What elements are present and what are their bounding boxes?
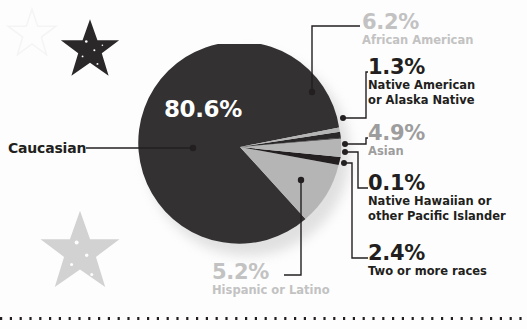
label-native-american-pct: 1.3% [368,57,475,78]
star-icon [58,18,122,80]
label-two-or-more-name: Two or more races [368,265,487,279]
label-native-american-name-line1: Native American [368,79,475,93]
label-native-american: 1.3% Native American or Alaska Native [368,57,475,107]
star-icon [38,208,122,294]
label-caucasian: Caucasian [8,140,86,156]
leader-two-or-more [344,163,368,258]
label-two-or-more: 2.4% Two or more races [368,243,487,279]
label-african-american-pct: 6.2% [362,12,473,33]
pie-chart: 80.6% [138,44,346,254]
label-african-american: 6.2% African American [362,12,473,48]
label-native-hawaiian-pct: 0.1% [368,173,506,194]
dotted-divider [0,317,527,320]
label-asian: 4.9% Asian [368,123,425,159]
pie-inside-label: 80.6% [164,96,242,122]
label-two-or-more-pct: 2.4% [368,243,487,264]
label-native-hawaiian-name-line2: other Pacific Islander [368,210,506,224]
pie-slices [138,44,346,254]
label-native-hawaiian: 0.1% Native Hawaiian or other Pacific Is… [368,173,506,223]
label-asian-name: Asian [368,145,425,159]
label-native-hawaiian-name-line1: Native Hawaiian or [368,195,506,209]
label-native-american-name-line2: or Alaska Native [368,94,475,108]
pie-chart-infographic: 80.6% Caucasia [0,0,527,329]
label-asian-pct: 4.9% [368,123,425,144]
label-hispanic-latino-name: Hispanic or Latino [212,284,330,298]
leader-native-american [343,72,368,118]
label-hispanic-latino: 5.2% Hispanic or Latino [212,262,330,298]
star-icon [6,6,58,60]
label-hispanic-latino-pct: 5.2% [212,262,330,283]
label-african-american-name: African American [362,34,473,48]
